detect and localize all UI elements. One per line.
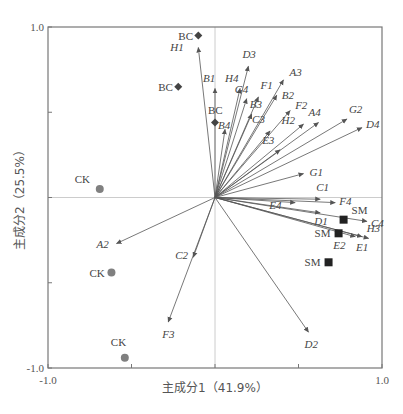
vector-label: B2 [282,89,295,101]
arrow-line [215,95,277,197]
observation-bc-1: BC [158,81,182,93]
observation-label: CK [75,173,90,185]
y-tick-label-min: -1.0 [27,362,45,374]
vector-label: E4 [268,199,282,211]
vector-label: F2 [294,99,308,111]
diamond-marker-icon [174,83,182,91]
observation-sm-7: SM [315,227,343,239]
vector-label: F4 [338,195,352,207]
vector-label: C2 [175,249,188,261]
observation-label: SM [315,227,331,239]
square-marker-icon [325,258,333,266]
observation-label: CK [89,267,104,279]
vector-label: D2 [304,338,319,350]
vector-label: D3 [241,48,256,60]
observation-label: BC [158,81,173,93]
x-axis-title: 主成分1（41.9%） [162,381,268,395]
vector-label: C1 [316,181,329,193]
pca-biplot-chart: -1.01.01.0-1.0 H1D3B1H4A3F1G4B2B3F2C3H2A… [0,0,403,414]
vector-label: E2 [332,239,346,251]
loading-vector-h1: H1 [169,41,215,197]
vector-label: B3 [250,98,263,110]
observation-label: SM [352,204,368,216]
arrow-line [215,174,304,198]
vector-label: H3 [366,222,381,234]
vector-label: A4 [308,106,322,118]
vector-label: G4 [235,83,249,95]
vector-label: H1 [169,41,183,53]
arrow-line [215,198,309,333]
observation-ck-3: CK [75,173,104,193]
y-tick-label-max: 1.0 [30,21,44,33]
observation-label: SM [305,256,321,268]
observation-ck-4: CK [89,267,115,279]
loading-vector-d2: D2 [215,198,318,351]
vector-label: E3 [261,134,275,146]
circle-marker-icon [96,185,104,193]
arrow-line [215,198,355,237]
arrow-line [215,128,362,198]
vector-label: C3 [252,113,265,125]
x-tick-label-max: 1.0 [375,374,389,386]
vector-label: H2 [281,114,296,126]
vector-label: B1 [203,72,215,84]
y-axis-title: 主成分2（25.5%） [13,144,27,250]
loading-vector-a2: A2 [95,198,215,250]
circle-marker-icon [121,354,129,362]
square-marker-icon [340,216,348,224]
vector-label: G2 [349,103,363,115]
vector-label: D4 [365,118,380,130]
diamond-marker-icon [194,32,202,40]
vector-label: F3 [161,328,175,340]
vector-label: D1 [313,215,327,227]
loading-vectors: H1D3B1H4A3F1G4B2B3F2C3H2A4G2D4E3B4G1C1F4… [95,41,384,350]
vector-label: F1 [259,79,272,91]
observation-sm-8: SM [305,256,333,268]
arrow-line [215,150,280,198]
vector-label: G1 [310,166,323,178]
vector-label: E1 [355,241,368,253]
circle-marker-icon [107,269,115,277]
arrow-line [215,124,304,197]
loading-vector-e2: E2 [215,198,355,251]
observation-label: BC [178,30,193,42]
observation-label: CK [111,336,126,348]
vector-label: B4 [218,119,231,131]
observation-bc-0: BC [178,30,202,42]
observation-ck-5: CK [111,336,129,362]
observation-label: BC [208,104,223,116]
vector-label: A2 [95,238,109,250]
vector-label: A3 [288,66,302,78]
square-marker-icon [335,229,343,237]
x-tick-label-min: -1.0 [39,374,57,386]
loading-vector-c1: C1 [215,181,329,199]
loading-vector-b1: B1 [203,72,215,197]
